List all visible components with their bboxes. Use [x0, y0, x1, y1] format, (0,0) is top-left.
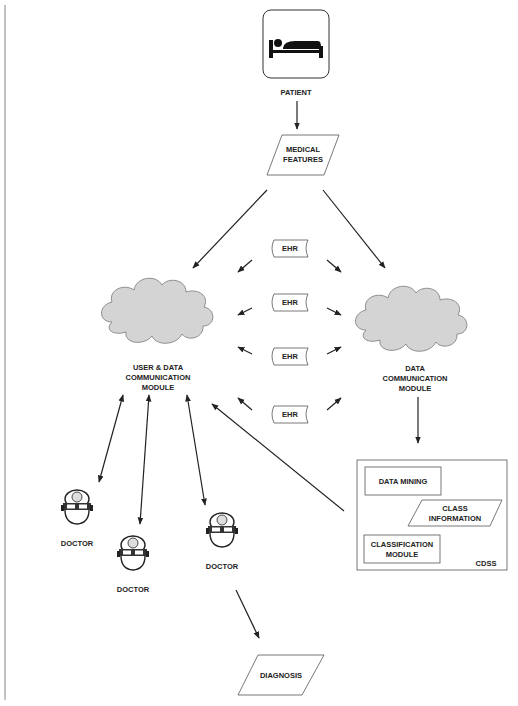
svg-text:USER & DATA: USER & DATA [133, 363, 184, 372]
medical-features-label-2: FEATURES [283, 155, 323, 164]
ehr-arrows-left [238, 260, 252, 410]
arrow-doctor-2 [140, 395, 149, 524]
svg-text:COMMUNICATION: COMMUNICATION [383, 374, 448, 383]
doctor-1: DOCTOR [61, 490, 94, 548]
doctor-3: DOCTOR [206, 513, 239, 571]
cloud-icon [102, 278, 213, 343]
diagram-canvas: PATIENT MEDICAL FEATURES EHR EHR EHR EHR [0, 0, 518, 706]
arrow-doctor-3 [187, 395, 205, 505]
medical-features-node: MEDICAL FEATURES [267, 135, 339, 175]
svg-text:EHR: EHR [282, 244, 298, 253]
arrow-features-to-user-module [193, 190, 267, 268]
doctor-2: DOCTOR [117, 536, 150, 594]
doctor-icon [206, 513, 238, 547]
arrow-features-to-data-module [323, 190, 385, 268]
ehr-document-3: EHR [272, 348, 308, 365]
ehr-arrows-right [327, 260, 341, 410]
svg-text:EHR: EHR [282, 352, 298, 361]
svg-text:DOCTOR: DOCTOR [61, 539, 94, 548]
svg-text:MODULE: MODULE [386, 550, 419, 559]
data-communication-module: DATA COMMUNICATION MODULE [356, 286, 467, 393]
patient-label: PATIENT [281, 88, 312, 97]
svg-text:MODULE: MODULE [399, 384, 432, 393]
svg-text:INFORMATION: INFORMATION [429, 514, 481, 523]
svg-text:DOCTOR: DOCTOR [206, 562, 239, 571]
user-data-communication-module: USER & DATA COMMUNICATION MODULE [102, 278, 213, 392]
medical-features-label-1: MEDICAL [286, 145, 321, 154]
svg-text:EHR: EHR [282, 298, 298, 307]
svg-text:COMMUNICATION: COMMUNICATION [126, 373, 191, 382]
arrow-doctor-to-diagnosis [236, 590, 259, 638]
cdss-container: DATA MINING CLASS INFORMATION CLASSIFICA… [357, 460, 507, 570]
arrow-doctor-1 [99, 395, 123, 482]
svg-text:EHR: EHR [282, 410, 298, 419]
data-mining-label: DATA MINING [379, 477, 428, 486]
patient-node: PATIENT [263, 10, 329, 97]
svg-text:MODULE: MODULE [142, 383, 175, 392]
ehr-document-1: EHR [272, 240, 308, 257]
svg-text:DOCTOR: DOCTOR [117, 585, 150, 594]
doctor-icon [61, 490, 93, 524]
ehr-document-2: EHR [272, 294, 308, 311]
doctor-icon [117, 536, 149, 570]
svg-text:CLASS: CLASS [442, 504, 467, 513]
cloud-icon [356, 286, 467, 351]
cdss-label: CDSS [476, 559, 497, 568]
ehr-document-4: EHR [272, 406, 308, 423]
svg-text:CLASSIFICATION: CLASSIFICATION [371, 540, 433, 549]
diagnosis-node: DIAGNOSIS [238, 655, 324, 695]
diagnosis-label: DIAGNOSIS [260, 671, 302, 680]
svg-text:DATA: DATA [405, 364, 425, 373]
